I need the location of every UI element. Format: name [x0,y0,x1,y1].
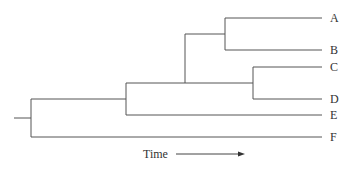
tree-branches [14,18,322,137]
time-arrow-icon [176,152,245,157]
taxon-labels: A B C D E F [330,11,339,144]
taxon-label-c: C [330,60,338,74]
taxon-label-a: A [330,11,339,25]
taxon-label-d: D [330,92,339,106]
phylogenetic-tree: A B C D E F Time [0,0,351,169]
time-axis-label: Time [143,147,168,161]
taxon-label-b: B [330,43,338,57]
taxon-label-f: F [330,130,337,144]
taxon-label-e: E [330,108,337,122]
